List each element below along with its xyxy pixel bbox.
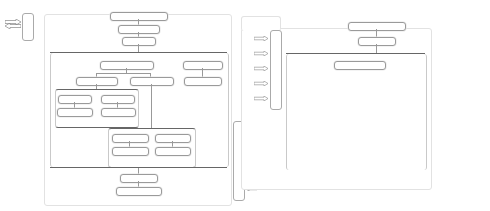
connector xyxy=(138,44,139,52)
activity-receive-confirm[interactable] xyxy=(101,108,136,117)
service-lane-tab xyxy=(241,16,281,31)
activity-invoke-payment[interactable] xyxy=(112,134,149,143)
activity-complex-order-client[interactable] xyxy=(110,12,168,21)
connector xyxy=(151,84,152,128)
activity-receive-specials[interactable] xyxy=(183,61,223,70)
connector xyxy=(126,68,127,73)
right-arrow-icon xyxy=(254,36,268,41)
activity-receive-sbc[interactable] xyxy=(155,147,191,156)
order-service-interface xyxy=(270,30,282,110)
startup-interface xyxy=(3,13,43,39)
activity-invoke-order[interactable] xyxy=(101,95,135,104)
activity-invoke-order-2[interactable] xyxy=(155,134,191,143)
activity-complex-order-service[interactable] xyxy=(348,22,406,31)
activity-receive-login[interactable] xyxy=(358,37,396,46)
activity-premium-customer[interactable] xyxy=(76,77,118,86)
connector xyxy=(376,44,377,53)
right-arrow-icon xyxy=(254,66,268,71)
activity-invoke-response[interactable] xyxy=(184,77,222,86)
startup-interface-box xyxy=(22,13,34,41)
activity-receive-confirm-2[interactable] xyxy=(112,147,149,156)
connector xyxy=(376,29,377,37)
activity-otherwise[interactable] xyxy=(130,77,174,86)
activity-receive-discount[interactable] xyxy=(57,108,93,117)
connector xyxy=(96,73,150,74)
right-arrow-icon xyxy=(254,81,268,86)
connector xyxy=(202,68,203,77)
order-service-messages xyxy=(253,30,269,110)
left-arrow-icon xyxy=(5,23,21,29)
right-arrow-icon xyxy=(254,96,268,101)
activity-receive-invocation[interactable] xyxy=(118,25,160,34)
activity-invoke-tof[interactable] xyxy=(58,95,92,104)
activity-receive-delivery[interactable] xyxy=(120,174,158,183)
right-arrow-icon xyxy=(254,51,268,56)
activity-invoke-login[interactable] xyxy=(122,37,156,46)
activity-decision-client[interactable] xyxy=(100,61,154,70)
activity-reply-invocation[interactable] xyxy=(116,187,162,196)
activity-decision-server[interactable] xyxy=(334,61,386,70)
service-main-block xyxy=(286,54,427,170)
